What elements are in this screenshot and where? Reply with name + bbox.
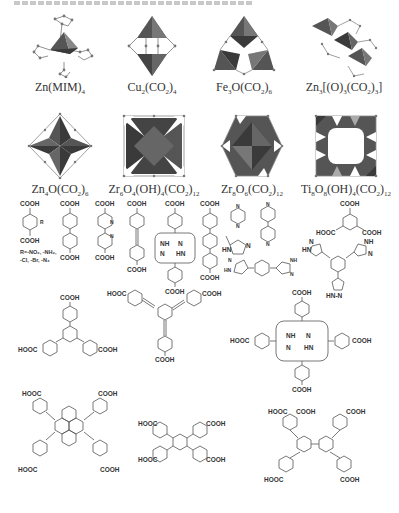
linker-bdc-r: COOH R COOH (20, 200, 44, 244)
linker-porphyrin-dicarboxy: COOH NHN NHN COOH (155, 200, 195, 295)
sbu-label-zn3: Zn3[(O)3(CO2)3] (292, 80, 396, 96)
svg-text:N: N (290, 271, 294, 277)
linker-btp: NHN NHN HN-N (302, 238, 374, 299)
linker-tcpb: HOOC COOH HOOC COOH (138, 420, 226, 463)
svg-text:COOH: COOH (202, 290, 222, 297)
svg-text:HOOC: HOOC (138, 420, 158, 427)
sbu-label-ti8: Ti8O8(OH)4(CO2)12 (296, 182, 396, 198)
svg-text:HOOC: HOOC (22, 390, 42, 397)
svg-text:N: N (266, 201, 270, 207)
zn3-chain-icon (308, 14, 380, 78)
svg-text:NH: NH (290, 257, 298, 263)
svg-text:R=-NO₂, -NH₂,: R=-NO₂, -NH₂, (20, 249, 57, 255)
svg-text:-Cl, -Br, -N₃: -Cl, -Br, -N₃ (20, 257, 50, 263)
svg-text:HOOC: HOOC (18, 346, 38, 353)
svg-text:COOH: COOH (200, 200, 220, 207)
svg-text:HOOC: HOOC (268, 408, 288, 415)
svg-text:COOH: COOH (296, 408, 316, 415)
svg-text:COOH: COOH (352, 337, 372, 344)
linker-bpydc: COOH N N COOH (95, 200, 115, 261)
svg-text:HOOC: HOOC (107, 290, 127, 297)
svg-text:COOH: COOH (20, 237, 40, 244)
svg-text:HOOC: HOOC (264, 476, 284, 483)
linker-bipyridine: N N (261, 201, 275, 247)
sbu-zn4o: Zn4O(CO2)6 (12, 112, 108, 198)
sbu-cu-paddlewheel: Cu2(CO2)4 (104, 14, 200, 96)
sbu-zn-mim: Zn(MIM)4 (12, 14, 108, 96)
svg-text:COOH: COOH (100, 466, 120, 473)
svg-text:COOH: COOH (165, 200, 185, 207)
svg-text:COOH: COOH (340, 200, 360, 207)
svg-text:HOOC: HOOC (230, 337, 250, 344)
linker-biphenyl-tetrabenzoate: HOOC COOH COOH HOOC COOH (264, 408, 366, 483)
organic-linkers-drawing: COOH R COOH COOH COOH COOH N N COOH COOH (0, 200, 399, 513)
svg-text:N: N (160, 250, 165, 257)
svg-text:N: N (286, 344, 291, 351)
ti8-ring-icon (312, 112, 380, 180)
svg-text:NH: NH (286, 332, 296, 339)
svg-text:N: N (110, 233, 114, 239)
svg-text:COOH: COOH (206, 456, 226, 463)
svg-text:COOH: COOH (20, 200, 40, 207)
svg-text:N: N (236, 203, 240, 209)
svg-text:COOH: COOH (127, 266, 147, 273)
zn4o-cluster-icon (25, 112, 95, 180)
linker-bdp: NHN NHN (224, 257, 298, 277)
linker-tpdc: COOH COOH (200, 200, 220, 281)
sbu-label-cu: Cu2(CO2)4 (104, 80, 200, 96)
sbu-label-zr6: Zr6O4(OH)4(CO2)12 (104, 182, 204, 198)
sbu-ti8: Ti8O8(OH)4(CO2)12 (296, 112, 396, 198)
sbu-label-fe3o: Fe3O(CO2)6 (196, 80, 292, 96)
svg-text:NH: NH (364, 238, 374, 245)
svg-text:COOH: COOH (340, 476, 360, 483)
figure-caption-faint (14, 0, 254, 6)
linker-tcpp: COOH NHN NHN HOOC COOH COOH (230, 289, 372, 393)
svg-text:COOH: COOH (95, 254, 115, 261)
svg-text:R: R (40, 219, 44, 225)
svg-text:COOH: COOH (95, 200, 115, 207)
svg-text:COOH: COOH (292, 289, 312, 296)
svg-text:NH: NH (160, 240, 170, 247)
svg-text:HN: HN (222, 246, 232, 253)
svg-text:HOOC: HOOC (18, 466, 38, 473)
svg-text:COOH: COOH (127, 200, 147, 207)
svg-text:COOH: COOH (206, 420, 226, 427)
svg-text:N: N (246, 242, 251, 249)
svg-text:COOH: COOH (155, 356, 175, 363)
sbu-zr8: Zr8O6(CO2)12 (204, 112, 300, 198)
linker-bpdc: COOH COOH (60, 200, 80, 261)
svg-text:COOH: COOH (60, 254, 80, 261)
sbu-fe3o: Fe3O(CO2)6 (196, 14, 292, 96)
svg-text:N: N (266, 241, 270, 247)
linker-pyrazine: N N (231, 203, 245, 229)
svg-text:N: N (368, 250, 373, 257)
linker-btb: COOH HOOC COOH (18, 294, 118, 356)
fe3o-trimer-icon (206, 14, 282, 78)
svg-text:N: N (110, 219, 114, 225)
zn-mim-tetrahedron-icon (20, 14, 100, 78)
linker-tbapy: HOOC COOH HOOC COOH (18, 390, 120, 473)
svg-text:COOH: COOH (346, 408, 366, 415)
linker-bte: HOOC COOH COOH (107, 290, 222, 363)
svg-text:HOOC: HOOC (316, 229, 336, 236)
sbu-zn3-chain: Zn3[(O)3(CO2)3] (292, 14, 396, 96)
zr8-cluster-icon (218, 112, 286, 180)
svg-text:N: N (178, 240, 183, 247)
sbu-zr6: Zr6O4(OH)4(CO2)12 (104, 112, 204, 198)
svg-text:COOH: COOH (60, 200, 80, 207)
linker-btc: COOH HOOC COOH (316, 200, 382, 236)
svg-text:COOH: COOH (200, 274, 220, 281)
svg-text:COOH: COOH (98, 346, 118, 353)
sbu-label-zn-mim: Zn(MIM)4 (12, 80, 108, 96)
cu-paddlewheel-icon (117, 14, 187, 78)
svg-text:COOH: COOH (98, 390, 118, 397)
linker-2-methylimidazole: HNN (222, 236, 251, 254)
svg-text:HOOC: HOOC (138, 456, 158, 463)
sbu-label-zr8: Zr8O6(CO2)12 (204, 182, 300, 198)
svg-text:COOH: COOH (362, 229, 382, 236)
svg-text:N: N (309, 238, 314, 245)
svg-text:COOH: COOH (60, 294, 80, 301)
zr6-cluster-icon (120, 112, 188, 180)
svg-text:COOH: COOH (292, 386, 312, 393)
linker-ebdc: COOH COOH (127, 200, 147, 273)
